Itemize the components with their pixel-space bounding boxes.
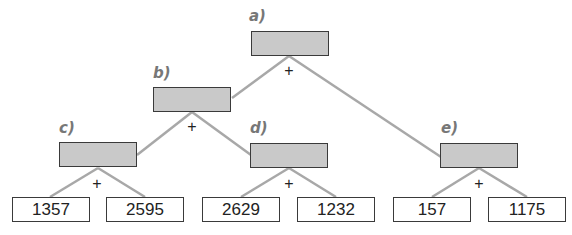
label-a: a) bbox=[249, 7, 266, 25]
leaf-number: 157 bbox=[393, 197, 471, 222]
label-d: d) bbox=[250, 119, 268, 137]
leaf-number: 1232 bbox=[297, 197, 375, 222]
answer-box-b[interactable] bbox=[153, 87, 231, 112]
plus-sign-d: + bbox=[283, 177, 295, 191]
plus-sign-c: + bbox=[91, 177, 103, 191]
answer-box-c[interactable] bbox=[59, 142, 137, 167]
label-e: e) bbox=[441, 119, 458, 137]
leaf-number: 1357 bbox=[12, 197, 90, 222]
leaf-number: 2595 bbox=[106, 197, 184, 222]
plus-sign-b: + bbox=[186, 120, 198, 134]
answer-box-d[interactable] bbox=[250, 143, 328, 168]
label-c: c) bbox=[59, 119, 75, 137]
leaf-number: 2629 bbox=[202, 197, 280, 222]
answer-box-e[interactable] bbox=[440, 143, 518, 168]
label-b: b) bbox=[153, 64, 171, 82]
plus-sign-e: + bbox=[473, 177, 485, 191]
leaf-number: 1175 bbox=[488, 197, 566, 222]
plus-sign-a: + bbox=[283, 64, 295, 78]
answer-box-a[interactable] bbox=[251, 31, 329, 56]
